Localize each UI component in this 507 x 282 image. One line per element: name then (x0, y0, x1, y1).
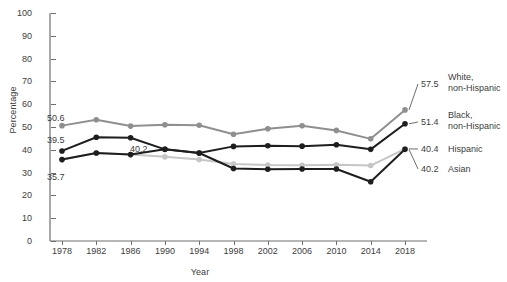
data-point (162, 147, 168, 153)
data-point (59, 148, 65, 154)
data-point (299, 143, 305, 149)
leader-line (409, 122, 418, 124)
series-end-value: 57.5 (421, 79, 439, 89)
data-point (299, 123, 305, 129)
leader-line (409, 149, 418, 169)
data-point (368, 147, 374, 153)
point-value-label: 40.2 (130, 144, 148, 154)
series-name-label: Black, (448, 110, 473, 120)
data-point (162, 122, 168, 128)
data-point (196, 157, 202, 163)
point-value-label: 35.7 (47, 172, 65, 182)
line-chart: Percentage Year 0102030405060708090100 1… (0, 0, 507, 282)
data-point (231, 131, 237, 137)
data-point (402, 107, 408, 113)
data-point (128, 123, 134, 129)
plot-area (0, 0, 507, 282)
data-point (334, 142, 340, 148)
data-point (59, 157, 65, 163)
data-point (94, 150, 100, 156)
data-point (368, 179, 374, 185)
series-name-label: non-Hispanic (448, 121, 501, 131)
data-point (231, 166, 237, 172)
series-name-label: non-Hispanic (448, 83, 501, 93)
point-value-label: 39.5 (47, 135, 65, 145)
data-point (162, 154, 168, 160)
series-end-value: 40.4 (421, 144, 439, 154)
data-point (94, 117, 100, 123)
series-name-label: White, (448, 72, 474, 82)
data-point (128, 135, 134, 141)
data-point (265, 143, 271, 149)
data-point (265, 166, 271, 172)
data-point (368, 163, 374, 169)
point-value-label: 50.6 (47, 113, 65, 123)
series-end-value: 51.4 (421, 117, 439, 127)
data-point (402, 147, 408, 153)
data-point (299, 166, 305, 172)
data-point (334, 166, 340, 172)
series-name-label: Asian (448, 164, 471, 174)
data-point (368, 136, 374, 142)
data-point (231, 144, 237, 150)
data-point (59, 123, 65, 129)
leader-line (409, 84, 418, 110)
data-point (196, 122, 202, 128)
series-end-value: 40.2 (421, 164, 439, 174)
data-point (265, 126, 271, 132)
data-point (402, 121, 408, 127)
data-point (94, 134, 100, 140)
data-point (334, 128, 340, 134)
series-name-label: Hispanic (448, 144, 483, 154)
data-point (196, 150, 202, 156)
